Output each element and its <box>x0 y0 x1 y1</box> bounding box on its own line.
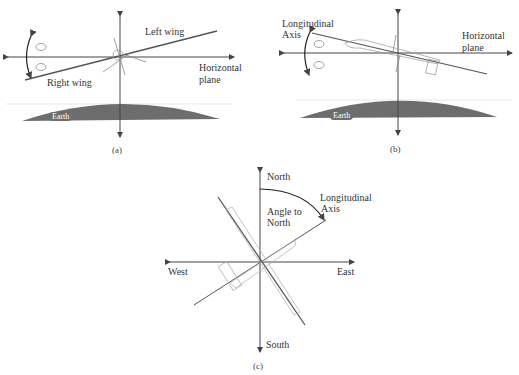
horizontal-label-b: Horizontal <box>462 30 505 41</box>
caption-c: (c) <box>253 361 263 371</box>
angle-label-line1: Angle to <box>267 206 302 217</box>
north-label: North <box>267 171 290 182</box>
horizontal-label-a: Horizontal <box>199 62 242 73</box>
east-label: East <box>337 266 354 277</box>
axis-label-b: Axis <box>282 29 301 40</box>
caption-b: (b) <box>390 144 401 154</box>
caption-a: (a) <box>112 145 122 155</box>
axis-label-c: Axis <box>321 203 340 214</box>
south-label: South <box>266 339 289 350</box>
plane-label-a: plane <box>199 74 221 85</box>
longitudinal-label-c: Longitudinal <box>320 192 372 203</box>
earth-label-a: Earth <box>49 112 72 121</box>
longitudinal-label-b: Longitudinal <box>282 18 334 29</box>
left-wing-label: Left wing <box>145 26 184 37</box>
plane-label-b: plane <box>462 42 484 53</box>
angle-label-line2: North <box>267 217 290 228</box>
earth-label-b: Earth <box>330 111 353 120</box>
wing-line-a <box>25 31 217 80</box>
west-label: West <box>168 266 188 277</box>
attitude-diagram <box>0 0 519 375</box>
right-wing-label: Right wing <box>47 77 92 88</box>
